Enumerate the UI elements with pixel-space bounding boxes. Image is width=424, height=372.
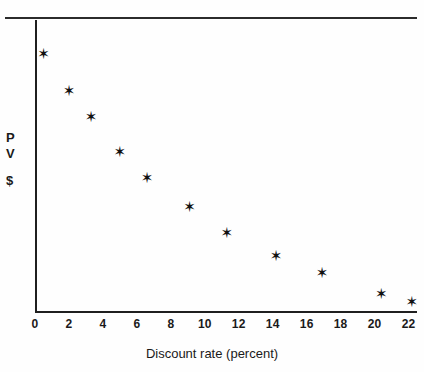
x-axis-line	[35, 311, 417, 313]
x-tick-label: 18	[326, 317, 356, 331]
top-horizontal-rule	[5, 17, 417, 19]
y-axis-line	[35, 20, 37, 313]
data-point: ✶	[315, 266, 329, 280]
x-axis-title: Discount rate (percent)	[0, 346, 424, 361]
y-axis-label: P V $	[6, 130, 28, 189]
x-tick-label: 14	[258, 317, 288, 331]
data-point: ✶	[374, 287, 388, 301]
y-axis-label-line-2: V	[6, 146, 15, 161]
data-point: ✶	[269, 249, 283, 263]
y-axis-label-line-3: $	[6, 173, 28, 189]
x-tick-label: 20	[360, 317, 390, 331]
x-tick-label: 2	[54, 317, 84, 331]
x-tick-label: 16	[292, 317, 322, 331]
data-point: ✶	[182, 200, 196, 214]
data-point: ✶	[84, 110, 98, 124]
data-point: ✶	[140, 171, 154, 185]
x-tick-label: 0	[20, 317, 50, 331]
x-tick-label: 12	[224, 317, 254, 331]
chart-figure: P V $ ✶✶✶✶✶✶✶✶✶✶✶ Discount rate (percent…	[0, 0, 424, 372]
x-tick-label: 4	[88, 317, 118, 331]
data-point: ✶	[62, 84, 76, 98]
x-tick-label: 8	[156, 317, 186, 331]
data-point: ✶	[405, 295, 419, 309]
y-axis-label-line-1: P	[6, 130, 15, 145]
data-point: ✶	[113, 145, 127, 159]
x-tick-label: 6	[122, 317, 152, 331]
x-tick-label: 10	[190, 317, 220, 331]
data-point: ✶	[36, 47, 50, 61]
data-point: ✶	[220, 226, 234, 240]
x-tick-label: 22	[394, 317, 424, 331]
